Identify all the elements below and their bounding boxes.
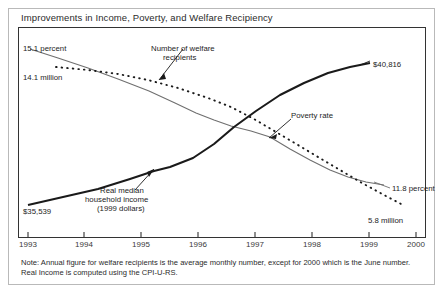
- x-tick-1996: 1996: [189, 240, 207, 250]
- series-line-household-income: [28, 63, 370, 205]
- x-tick-1999: 1999: [360, 240, 378, 250]
- annotation-income-label-line2: household income: [85, 195, 148, 204]
- annotation-welfare-label-line2: recipients: [163, 53, 196, 62]
- figure-root: Improvements in Income, Poverty, and Wel…: [0, 0, 444, 292]
- annotation-poverty-end: 11.8 percent: [392, 184, 435, 193]
- annotation-welfare-end: 5.8 million: [368, 216, 403, 225]
- annotation-welfare-label-line1: Number of welfare: [151, 44, 215, 53]
- annotation-poverty-label: Poverty rate: [291, 111, 333, 120]
- x-tick-2000: 2000: [407, 240, 425, 250]
- footnote-line-2: Real Income is computed using the CPI-U-…: [21, 268, 425, 278]
- annotation-income-label-line3: (1999 dollars): [97, 204, 145, 213]
- annotation-income-end: $40,816: [373, 60, 401, 69]
- x-tick-1993: 1993: [19, 240, 37, 250]
- x-axis-ticks: [28, 232, 416, 237]
- x-tick-1995: 1995: [132, 240, 150, 250]
- x-axis-labels: 1993 1994 1995 1996 1997 1998 1999 2000: [18, 240, 426, 254]
- x-tick-1998: 1998: [303, 240, 321, 250]
- footnote-line-1: Note: Annual figure for welfare recipien…: [21, 258, 425, 268]
- x-tick-1997: 1997: [246, 240, 264, 250]
- figure-title: Improvements in Income, Poverty, and Wel…: [21, 12, 421, 24]
- chart-plot: [18, 27, 426, 238]
- annotation-poverty-start: 15.1 percent: [23, 44, 66, 53]
- annotation-income-label-line1: Real median: [100, 186, 144, 195]
- poverty-label-leader: [269, 119, 291, 139]
- series-line-welfare-recipients: [56, 67, 403, 205]
- annotation-welfare-start: 14.1 million: [23, 73, 62, 82]
- annotation-income-start: $35,539: [23, 207, 51, 216]
- poverty-end-leader: [374, 182, 390, 188]
- figure-footnote: Note: Annual figure for welfare recipien…: [21, 258, 425, 278]
- x-tick-1994: 1994: [75, 240, 93, 250]
